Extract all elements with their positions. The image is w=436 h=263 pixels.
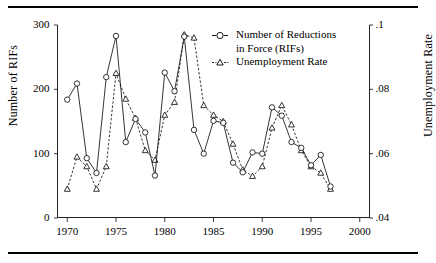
data-point [318,152,323,157]
data-point [133,116,138,121]
data-point [269,105,274,110]
x-tick-label-1985: 1985 [194,225,234,237]
data-point [328,184,333,189]
data-point [65,97,70,102]
data-point [259,163,265,168]
data-point [279,102,285,107]
data-point [113,33,118,38]
legend-marker-triangle [211,56,233,69]
y-tick-label-left-0: 0 [18,211,50,223]
data-point [250,173,256,178]
data-point [162,70,167,75]
data-point [289,139,294,144]
data-point [162,112,168,117]
y-axis-left-ticks [54,25,58,218]
data-point [74,81,79,86]
data-point [172,89,177,94]
y-tick-label-right-p08: .08 [376,82,408,94]
data-point [143,130,148,135]
legend: Number of Reductions in Force (RIFs) Une… [211,28,336,69]
data-point [191,127,196,132]
legend-marker-circle [211,29,233,42]
x-tick-label-1970: 1970 [47,225,87,237]
data-point [182,34,187,39]
y-tick-label-right-p04: .04 [376,211,408,223]
data-point [221,120,226,125]
y-axis-right-ticks [370,25,374,218]
data-point [123,96,129,101]
data-point [142,147,148,152]
data-point [64,186,70,191]
y-axis-right-label: Unemployment Rate [421,16,436,156]
x-tick-label-1980: 1980 [145,225,185,237]
data-point [74,154,80,159]
data-point [260,151,265,156]
data-point [299,145,304,150]
data-point [308,163,313,168]
legend-item-rifs: Number of Reductions in Force (RIFs) [211,28,336,55]
data-point [240,170,245,175]
legend-item-unemployment: Unemployment Rate [211,55,336,69]
y-tick-label-right-p06: .06 [376,147,408,159]
data-point [269,125,275,130]
data-point [94,170,99,175]
legend-label-rifs-line1: Number of Reductions [236,28,336,42]
data-point [113,70,119,75]
data-point [123,139,128,144]
data-point [279,113,284,118]
y-tick-label-left-100: 100 [18,147,50,159]
y-tick-label-right-p1: .1 [376,18,408,30]
legend-label-unemployment: Unemployment Rate [236,55,327,69]
data-point [152,173,157,178]
data-point [211,118,216,123]
data-point [103,163,109,168]
data-point [250,150,255,155]
x-tick-label-1975: 1975 [96,225,136,237]
data-point [289,122,295,127]
data-point [172,99,178,104]
legend-label-rifs-line2: in Force (RIFs) [236,42,336,56]
x-tick-label-2000: 2000 [340,225,380,237]
x-axis-ticks [67,218,360,222]
data-point [94,186,100,191]
x-tick-label-1990: 1990 [242,225,282,237]
x-tick-label-1995: 1995 [291,225,331,237]
data-point [84,155,89,160]
data-point [318,170,324,175]
data-point [201,102,207,107]
y-tick-label-left-200: 200 [18,82,50,94]
data-point [201,151,206,156]
data-point [230,160,235,165]
y-tick-label-left-300: 300 [18,18,50,30]
data-point [104,74,109,79]
data-point [230,141,236,146]
